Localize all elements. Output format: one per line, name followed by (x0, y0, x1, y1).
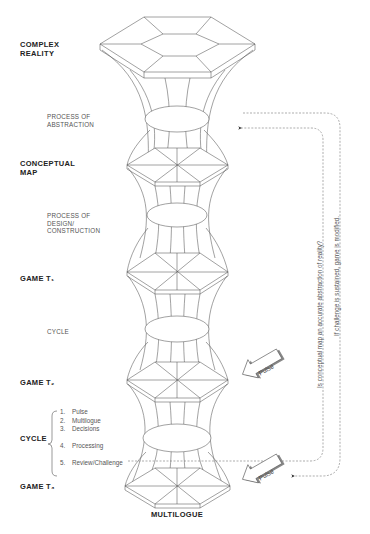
cycle-step: 3.Decisions (60, 425, 123, 434)
label-process-of-abstraction: PROCESS OF ABSTRACTION (47, 113, 94, 128)
pulse-arrow-1 (238, 344, 288, 386)
diagram-graphic (0, 0, 370, 534)
cycle-step: 5.Review/Challenge (60, 459, 123, 468)
tower-structure (100, 17, 255, 508)
game-t3-hexagon (125, 468, 230, 508)
cycle-step: 1.Pulse (60, 408, 123, 417)
label-game-t3: GAME T₃ (20, 482, 55, 491)
feedback-modified-text: If challenge is sustained, game is modif… (333, 216, 340, 336)
cycle-step: 4.Processing (60, 442, 123, 451)
label-complex-reality: COMPLEX REALITY (20, 40, 59, 58)
pulse-arrow-2 (238, 449, 288, 491)
game-t2-hexagon (127, 362, 228, 402)
label-game-t2: GAME T₂ (20, 378, 55, 387)
label-cycle-mid: CYCLE (47, 328, 69, 336)
feedback-question-text: Is conceptual map an accurate abstractio… (316, 241, 323, 388)
feedback-loops (240, 113, 340, 476)
cycle-step: 2.Multilogue (60, 417, 123, 426)
game-t1-hexagon (127, 253, 228, 294)
label-cycle: CYCLE (20, 434, 47, 443)
cycle-brace (48, 411, 57, 476)
label-multilogue: MULTILOGUE (151, 510, 203, 519)
cycle-steps-list: 1.Pulse 2.Multilogue 3.Decisions 4.Proce… (60, 408, 123, 468)
label-process-of-design: PROCESS OF DESIGN/ CONSTRUCTION (47, 212, 100, 235)
label-conceptual-map: CONCEPTUAL MAP (20, 159, 75, 177)
label-game-t1: GAME T₁ (20, 274, 54, 283)
conceptual-map-hexagon (127, 148, 228, 186)
